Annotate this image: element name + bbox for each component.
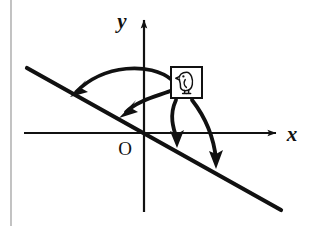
figure-root: x y O — [0, 0, 319, 226]
decreasing-linear-graph — [27, 68, 281, 210]
y-axis-label: y — [114, 9, 127, 33]
arrow-to-left-of-origin-line-point — [119, 90, 173, 118]
coordinate-diagram: x y O — [0, 0, 319, 226]
arrow-to-line-below-x-axis — [170, 100, 184, 148]
x-axis-label: x — [286, 122, 298, 146]
origin-label: O — [118, 138, 132, 159]
bird-icon-box[interactable] — [171, 67, 202, 98]
arrow-to-upper-left-line-point — [70, 68, 172, 97]
arrow-to-lower-right-line-point — [192, 100, 223, 169]
